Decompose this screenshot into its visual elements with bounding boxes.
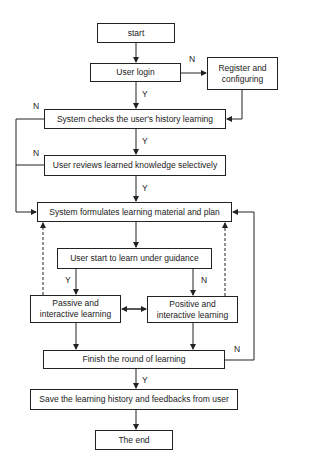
- start-node: start: [97, 23, 175, 43]
- login-node: User login: [90, 63, 181, 82]
- login-yes-label: Y: [142, 89, 148, 99]
- start-learn-no-label: N: [201, 275, 207, 285]
- check-history-label: System checks the user's history learnin…: [57, 114, 213, 125]
- start-label: start: [128, 28, 145, 39]
- positive-node: Positive and interactive learning: [147, 296, 238, 323]
- login-no-label: N: [189, 54, 195, 64]
- passive-node: Passive and interactive learning: [30, 295, 121, 323]
- check-yes-label: Y: [142, 136, 148, 146]
- start-learn-yes-label: Y: [65, 275, 71, 285]
- end-node: The end: [95, 430, 173, 450]
- login-label: User login: [116, 67, 154, 78]
- end-label: The end: [118, 435, 149, 446]
- register-node: Register and configuring: [207, 57, 278, 90]
- start-learn-node: User start to learn under guidance: [57, 248, 212, 269]
- start-learn-label: User start to learn under guidance: [70, 253, 199, 264]
- formulate-label: System formulates learning material and …: [49, 207, 220, 218]
- save-label: Save the learning history and feedbacks …: [39, 394, 228, 405]
- finish-label: Finish the round of learning: [82, 354, 185, 365]
- review-node: User reviews learned knowledge selective…: [44, 155, 226, 176]
- check-history-node: System checks the user's history learnin…: [44, 109, 226, 129]
- passive-label: Passive and interactive learning: [37, 298, 114, 319]
- positive-label: Positive and interactive learning: [154, 299, 231, 320]
- formulate-node: System formulates learning material and …: [37, 202, 232, 222]
- register-label: Register and configuring: [212, 63, 273, 84]
- review-label: User reviews learned knowledge selective…: [53, 160, 217, 171]
- finish-yes-label: Y: [142, 375, 148, 385]
- finish-node: Finish the round of learning: [43, 350, 225, 369]
- save-node: Save the learning history and feedbacks …: [30, 389, 238, 410]
- review-no-label: N: [33, 148, 39, 158]
- check-no-label: N: [33, 101, 39, 111]
- finish-no-label: N: [234, 344, 240, 354]
- review-yes-label: Y: [142, 183, 148, 193]
